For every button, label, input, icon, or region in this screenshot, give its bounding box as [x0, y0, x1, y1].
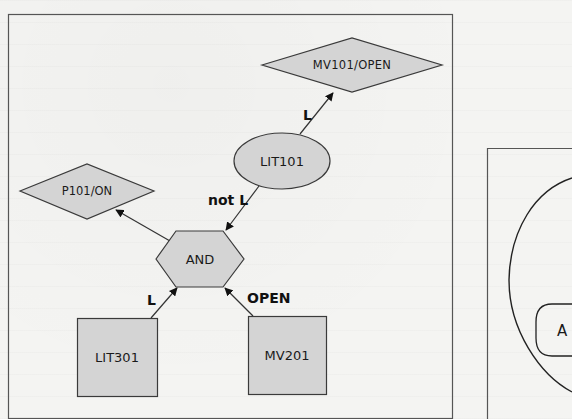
node-lit301: LIT301 — [78, 319, 158, 397]
node-label-p101-on: P101/ON — [62, 184, 112, 198]
edge-and-p101 — [116, 210, 170, 241]
node-label-lit301: LIT301 — [95, 350, 139, 365]
right-panel-frame — [488, 149, 572, 419]
node-label-mv101-open: MV101/OPEN — [313, 58, 391, 72]
edge-label-lit301-and: L — [147, 292, 156, 308]
node-label-lit101: LIT101 — [260, 154, 304, 169]
node-mv101-open: MV101/OPEN — [262, 38, 442, 92]
node-label-mv201: MV201 — [265, 348, 310, 363]
edge-label-lit101-and: not L — [208, 192, 248, 208]
node-and: AND — [156, 231, 244, 287]
edge-label-mv201-and: OPEN — [247, 290, 290, 306]
node-label-and: AND — [186, 252, 215, 267]
node-lit101: LIT101 — [234, 133, 330, 189]
diagram-canvas: L not L L OPEN MV101/OPEN LIT101 P101/ON… — [0, 0, 572, 419]
node-mv201: MV201 — [249, 317, 327, 395]
right-panel-partial-label: A — [557, 322, 568, 340]
edge-label-lit101-mv101: L — [303, 107, 312, 123]
right-panel-outer-curve — [509, 178, 572, 392]
diagram-svg: L not L L OPEN MV101/OPEN LIT101 P101/ON… — [0, 0, 572, 419]
right-panel: A — [488, 149, 572, 419]
node-p101-on: P101/ON — [20, 164, 154, 219]
